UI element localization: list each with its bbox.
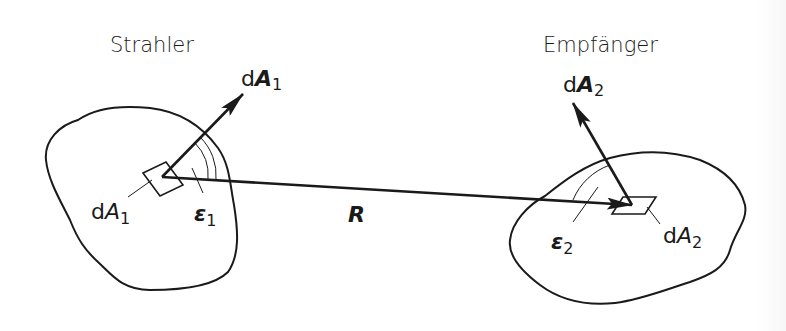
emitter-label: Strahler	[110, 33, 194, 57]
leader-line-da1	[128, 180, 152, 197]
receiver-surface	[510, 152, 746, 304]
normal-vector-1	[162, 94, 243, 177]
angle-arc-2	[573, 165, 610, 200]
receiver-label: Empfänger	[543, 33, 658, 57]
normal-vector-2-label: dA2	[563, 72, 604, 100]
area-element-1-label: dA1	[91, 199, 130, 228]
connection-vector-label: R	[348, 202, 365, 227]
angle-2-label: ε2	[551, 229, 573, 258]
angle-1-label: ε1	[194, 201, 216, 230]
normal-vector-1-label: dA1	[241, 66, 282, 94]
radiation-diagram: Strahler Empfänger dA1 dA2 dA1 ε1 R ε2 d…	[0, 0, 786, 331]
emitter-surface	[46, 107, 237, 290]
leader-line-da2	[647, 207, 660, 224]
angle-arc-1-inner	[195, 143, 208, 179]
diagram-canvas: Strahler Empfänger dA1 dA2 dA1 ε1 R ε2 d…	[0, 0, 786, 331]
area-element-2-label: dA2	[663, 223, 702, 252]
